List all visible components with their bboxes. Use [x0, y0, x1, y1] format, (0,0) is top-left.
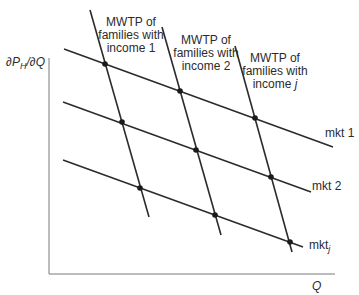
svg-text:MWTP of: MWTP of	[106, 15, 156, 29]
svg-text:MWTP of: MWTP of	[250, 51, 300, 65]
svg-text:families with: families with	[242, 64, 307, 78]
svg-text:income 1: income 1	[107, 41, 156, 55]
y-axis-label: ∂PH/∂Q	[6, 55, 45, 71]
mwtp-label-income-1: MWTP of families with income 1	[98, 15, 163, 55]
point-mkt2-inc1	[119, 119, 125, 125]
market-label-1: mkt 1	[325, 126, 355, 140]
point-mktj-inc1	[137, 185, 143, 191]
market-line-j	[63, 160, 303, 247]
point-mkt2-inc2	[193, 147, 199, 153]
point-mktj-inc2	[212, 212, 218, 218]
market-label-2: mkt 2	[312, 179, 342, 193]
point-mkt1-incj	[252, 115, 258, 121]
market-label-j: mktj	[309, 238, 331, 254]
hedonic-diagram: ∂PH/∂Q Q MWTP of families with income 1 …	[0, 0, 359, 295]
svg-text:MWTP of: MWTP of	[181, 33, 231, 47]
point-mkt1-inc2	[177, 88, 183, 94]
svg-text:families with: families with	[98, 28, 163, 42]
point-mkt2-incj	[268, 174, 274, 180]
svg-text:income 2: income 2	[182, 59, 231, 73]
x-axis-label: Q	[312, 279, 321, 293]
point-mkt1-inc1	[102, 61, 108, 67]
point-mktj-incj	[287, 239, 293, 245]
mwtp-label-income-j: MWTP of families with income j	[242, 51, 307, 91]
svg-text:income j: income j	[253, 77, 298, 91]
svg-text:families with: families with	[173, 46, 238, 60]
mwtp-label-income-2: MWTP of families with income 2	[173, 33, 238, 73]
